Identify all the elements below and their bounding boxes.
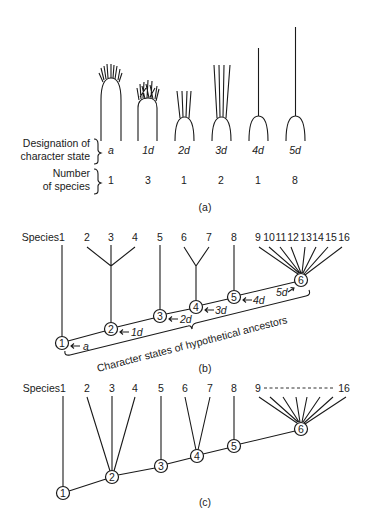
- species-b-12: 12: [287, 231, 299, 243]
- svg-text:1d: 1d: [131, 326, 144, 338]
- designation-3d: 3d: [215, 144, 228, 156]
- count-1d: 3: [145, 174, 151, 186]
- designation-a: a: [108, 144, 114, 156]
- species-c-range-end: 16: [338, 382, 350, 394]
- svg-text:2: 2: [108, 323, 114, 335]
- svg-text:5d: 5d: [276, 286, 289, 298]
- species-b-2: 2: [84, 231, 90, 243]
- ancestors-brace-label: Character states of hypothetical ancesto…: [95, 313, 288, 374]
- svg-text:2d: 2d: [179, 313, 193, 325]
- count-4d: 1: [255, 174, 261, 186]
- species-b-5: 5: [157, 231, 163, 243]
- count-2d: 1: [181, 174, 187, 186]
- species-c-2: 2: [84, 382, 90, 394]
- svg-text:6: 6: [298, 274, 304, 286]
- arrow-up-right-icon: [288, 288, 294, 293]
- svg-text:4: 4: [193, 301, 199, 313]
- species-c-8: 8: [231, 382, 237, 394]
- designation-2d: 2d: [177, 144, 191, 156]
- species-c-5: 5: [158, 382, 164, 394]
- node-b-2: 2: [105, 323, 118, 336]
- arrow-left-icon: [169, 317, 178, 322]
- node-b-3: 3: [154, 310, 167, 323]
- species-b-4: 4: [132, 231, 138, 243]
- node-c-2: 2: [106, 471, 119, 484]
- count-brace: [94, 169, 101, 194]
- arrow-left-icon: [205, 308, 214, 313]
- species-b-9: 9: [255, 231, 261, 243]
- species-b-10: 10: [263, 231, 275, 243]
- svg-text:5: 5: [231, 440, 237, 452]
- svg-text:1: 1: [59, 337, 65, 349]
- species-b-1: 1: [59, 231, 65, 243]
- svg-text:4: 4: [194, 450, 200, 462]
- count-label-line1: Number: [53, 167, 91, 179]
- count-a: 1: [108, 174, 114, 186]
- node-b-6: 6: [295, 274, 308, 287]
- node-c-4: 4: [191, 450, 204, 463]
- node-c-5: 5: [228, 440, 241, 453]
- species-b-11: 11: [276, 231, 287, 243]
- species-c-range-start: 9: [255, 382, 261, 394]
- svg-text:1: 1: [60, 487, 66, 499]
- species-c-1: 1: [60, 382, 66, 394]
- svg-text:4d: 4d: [253, 294, 266, 306]
- designation-5d: 5d: [289, 144, 302, 156]
- character-state-2d-shape: [175, 91, 194, 141]
- character-state-4d-shape: [249, 48, 268, 141]
- node-b-4: 4: [190, 301, 203, 314]
- species-c-3: 3: [109, 382, 115, 394]
- caption-c: (c): [199, 496, 211, 508]
- designation-label-line1: Designation of: [23, 137, 90, 149]
- character-state-a-shape: [99, 64, 122, 141]
- count-label-line2: of species: [43, 180, 90, 192]
- designation-brace: [94, 139, 101, 164]
- arrow-left-icon: [243, 298, 252, 303]
- node-b-1: 1: [56, 337, 69, 350]
- caption-b: (b): [199, 362, 212, 374]
- species-b-8: 8: [231, 231, 237, 243]
- svg-text:6: 6: [298, 423, 304, 435]
- species-b-15: 15: [325, 231, 337, 243]
- branches-b: [62, 245, 342, 341]
- svg-text:5: 5: [231, 291, 237, 303]
- species-b-6: 6: [181, 231, 187, 243]
- node-b-5: 5: [228, 291, 241, 304]
- character-state-5d-shape: [286, 27, 305, 141]
- count-5d: 8: [292, 174, 298, 186]
- arrow-left-icon: [120, 330, 129, 335]
- species-label-c: Species: [23, 382, 60, 394]
- species-b-16: 16: [338, 231, 350, 243]
- character-state-3d-shape: [212, 65, 231, 141]
- species-label-b: Species: [22, 231, 59, 243]
- svg-text:3: 3: [157, 310, 163, 322]
- svg-text:3: 3: [158, 460, 164, 472]
- node-c-6: 6: [295, 423, 308, 436]
- arrow-left-icon: [71, 344, 80, 349]
- designation-4d: 4d: [252, 144, 265, 156]
- cladogram-figure: Designation of character state Number of…: [0, 0, 373, 531]
- species-b-13: 13: [300, 231, 312, 243]
- species-b-7: 7: [206, 231, 212, 243]
- species-c-7: 7: [207, 382, 213, 394]
- species-c-6: 6: [182, 382, 188, 394]
- designation-1d: 1d: [142, 144, 155, 156]
- species-b-3: 3: [108, 231, 114, 243]
- panel-c: Species 1 2 3 4 5 6 7 8 9 16 1 2 3 4 5 6…: [23, 382, 350, 508]
- caption-a: (a): [199, 201, 212, 213]
- node-c-1: 1: [57, 487, 70, 500]
- node-c-3: 3: [155, 460, 168, 473]
- designation-label-line2: character state: [21, 150, 91, 162]
- svg-text:3d: 3d: [215, 304, 228, 316]
- count-3d: 2: [218, 174, 224, 186]
- svg-text:2: 2: [109, 471, 115, 483]
- character-state-1d-shape: [137, 80, 159, 141]
- species-c-4: 4: [132, 382, 138, 394]
- panel-a: Designation of character state Number of…: [21, 27, 305, 213]
- panel-b: Species 1 2 3 4 5 6 7 8 9 10 11 12 13 14…: [22, 231, 350, 374]
- species-b-14: 14: [312, 231, 324, 243]
